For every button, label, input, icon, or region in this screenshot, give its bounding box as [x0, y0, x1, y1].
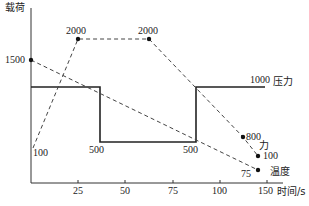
label-2000-b: 2000	[138, 26, 158, 36]
label-100-force-end: 100	[263, 151, 278, 161]
label-1000: 1000	[250, 75, 270, 85]
label-500-a: 500	[89, 145, 104, 155]
x-tick-100: 100	[212, 186, 227, 196]
x-tick-150: 150	[258, 186, 273, 196]
force-line	[33, 39, 258, 156]
label-500-b: 500	[183, 145, 198, 155]
x-tick-25: 25	[73, 186, 83, 196]
x-tick-50: 50	[120, 186, 130, 196]
pressure-line	[31, 87, 265, 142]
x-axis-label: 时间/s	[277, 187, 306, 197]
data-points	[29, 37, 260, 172]
x-tick-75: 75	[168, 186, 178, 196]
label-2000-a: 2000	[66, 26, 86, 36]
y-axis-label: 载荷	[5, 3, 25, 13]
label-1500: 1500	[5, 55, 25, 65]
label-75: 75	[241, 169, 251, 179]
label-100-start: 100	[33, 148, 48, 158]
label-temperature: 温度	[270, 167, 290, 177]
temperature-line	[31, 60, 258, 170]
label-pressure: 压力	[273, 77, 293, 87]
